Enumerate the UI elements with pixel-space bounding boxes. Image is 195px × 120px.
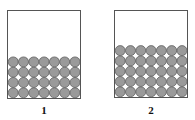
sphere	[70, 88, 80, 98]
sphere	[39, 57, 49, 67]
sphere	[136, 66, 146, 76]
sphere	[60, 78, 70, 88]
sphere	[126, 87, 136, 97]
sphere	[156, 66, 166, 76]
sphere	[115, 56, 125, 66]
container-2-label: 2	[141, 104, 161, 116]
sphere	[177, 77, 187, 87]
sphere	[146, 66, 156, 76]
container-1-label: 1	[34, 104, 54, 116]
sphere	[156, 56, 166, 66]
sphere	[70, 57, 80, 67]
sphere	[19, 67, 29, 77]
sphere	[136, 77, 146, 87]
sphere	[136, 46, 146, 56]
sphere	[70, 67, 80, 77]
sphere	[49, 78, 59, 88]
sphere	[167, 66, 177, 76]
sphere	[39, 67, 49, 77]
sphere	[177, 66, 187, 76]
sphere	[146, 87, 156, 97]
sphere	[115, 77, 125, 87]
sphere	[29, 67, 39, 77]
sphere	[177, 56, 187, 66]
sphere	[29, 78, 39, 88]
sphere	[167, 77, 177, 87]
sphere	[8, 78, 18, 88]
sphere	[126, 56, 136, 66]
sphere	[8, 67, 18, 77]
sphere	[115, 87, 125, 97]
sphere	[115, 66, 125, 76]
sphere	[39, 88, 49, 98]
sphere	[146, 77, 156, 87]
sphere	[126, 46, 136, 56]
sphere	[49, 67, 59, 77]
sphere	[177, 46, 187, 56]
sphere	[167, 56, 177, 66]
sphere	[136, 87, 146, 97]
sphere	[29, 88, 39, 98]
sphere	[60, 67, 70, 77]
sphere	[8, 88, 18, 98]
sphere	[156, 87, 166, 97]
sphere	[49, 57, 59, 67]
sphere	[29, 57, 39, 67]
sphere	[39, 78, 49, 88]
sphere	[136, 56, 146, 66]
sphere	[126, 77, 136, 87]
sphere	[19, 57, 29, 67]
sphere	[167, 87, 177, 97]
sphere	[146, 46, 156, 56]
sphere	[60, 88, 70, 98]
sphere	[49, 88, 59, 98]
sphere	[70, 78, 80, 88]
sphere	[115, 46, 125, 56]
sphere	[156, 46, 166, 56]
sphere	[156, 77, 166, 87]
sphere	[126, 66, 136, 76]
sphere	[19, 78, 29, 88]
spheres-layer	[0, 0, 195, 120]
sphere	[8, 57, 18, 67]
sphere	[60, 57, 70, 67]
sphere	[167, 46, 177, 56]
sphere	[146, 56, 156, 66]
sphere	[19, 88, 29, 98]
sphere	[177, 87, 187, 97]
